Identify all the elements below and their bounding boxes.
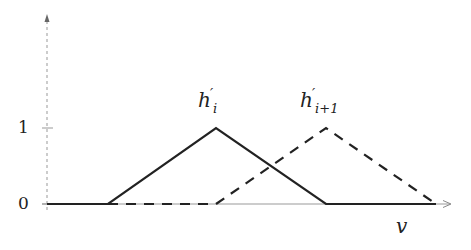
label-base: h [300, 88, 313, 112]
label-subscript: i [213, 101, 217, 116]
diagram-svg [0, 0, 471, 250]
y-axis-arrow-icon [45, 14, 50, 22]
y-tick-label-0: 0 [18, 193, 29, 213]
curve-label-h-i: h′i [198, 88, 217, 112]
curve-h-i [47, 128, 436, 204]
x-axis-label: v [396, 214, 407, 238]
prime-mark: ′ [210, 86, 213, 102]
diagram-canvas: 1 0 h′i h′i+1 v [0, 0, 471, 250]
label-base: h [198, 88, 211, 112]
prime-mark: ′ [312, 86, 315, 102]
curve-label-h-i-plus-1: h′i+1 [300, 88, 338, 112]
label-subscript: i+1 [315, 101, 338, 116]
y-tick-label-1: 1 [18, 117, 29, 137]
